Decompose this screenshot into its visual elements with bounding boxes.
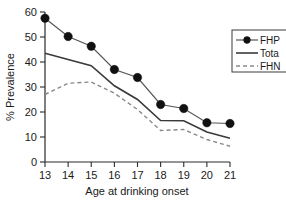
x-tick-label: 19: [178, 169, 190, 181]
series-line-fhn: [45, 82, 230, 146]
x-tick-label: 17: [131, 169, 143, 181]
y-axis-title: % Prevalence: [4, 53, 16, 121]
y-tick-label: 40: [25, 56, 37, 68]
legend-label-fhp: FHP: [260, 35, 280, 46]
y-tick-label: 20: [25, 106, 37, 118]
data-point-fhp: [110, 65, 118, 73]
data-point-fhp: [156, 100, 164, 108]
x-tick-label: 13: [39, 169, 51, 181]
legend: FHP Tota FHN: [232, 30, 286, 72]
x-tick-label: 21: [224, 169, 236, 181]
x-tick-label: 20: [201, 169, 213, 181]
data-point-fhp: [203, 119, 211, 127]
y-tick-label: 0: [31, 156, 37, 168]
data-point-fhp: [133, 73, 141, 81]
y-tick-group: 0102030405060: [25, 6, 45, 168]
y-tick-label: 50: [25, 31, 37, 43]
x-tick-label: 18: [155, 169, 167, 181]
series-line-total: [45, 53, 230, 138]
legend-label-fhn: FHN: [260, 61, 281, 72]
data-point-fhp: [180, 104, 188, 112]
series-group: [41, 14, 234, 146]
series-markers-fhp: [41, 14, 234, 128]
data-point-fhp: [41, 14, 49, 22]
chart-figure: 0102030405060 131415161718192021 Age at …: [0, 0, 286, 207]
legend-label-total: Tota: [260, 48, 279, 59]
data-point-fhp: [87, 42, 95, 50]
legend-swatch-fhp-marker: [244, 37, 251, 44]
y-tick-label: 30: [25, 81, 37, 93]
y-tick-label: 60: [25, 6, 37, 18]
x-axis-title: Age at drinking onset: [85, 185, 188, 197]
y-tick-label: 10: [25, 131, 37, 143]
series-line-fhp: [45, 18, 230, 123]
data-point-fhp: [226, 119, 234, 127]
data-point-fhp: [64, 32, 72, 40]
line-chart: 0102030405060 131415161718192021 Age at …: [0, 0, 286, 207]
axis-group: [45, 12, 230, 162]
x-tick-label: 14: [62, 169, 74, 181]
x-tick-group: 131415161718192021: [39, 162, 236, 181]
x-tick-label: 16: [108, 169, 120, 181]
x-tick-label: 15: [85, 169, 97, 181]
